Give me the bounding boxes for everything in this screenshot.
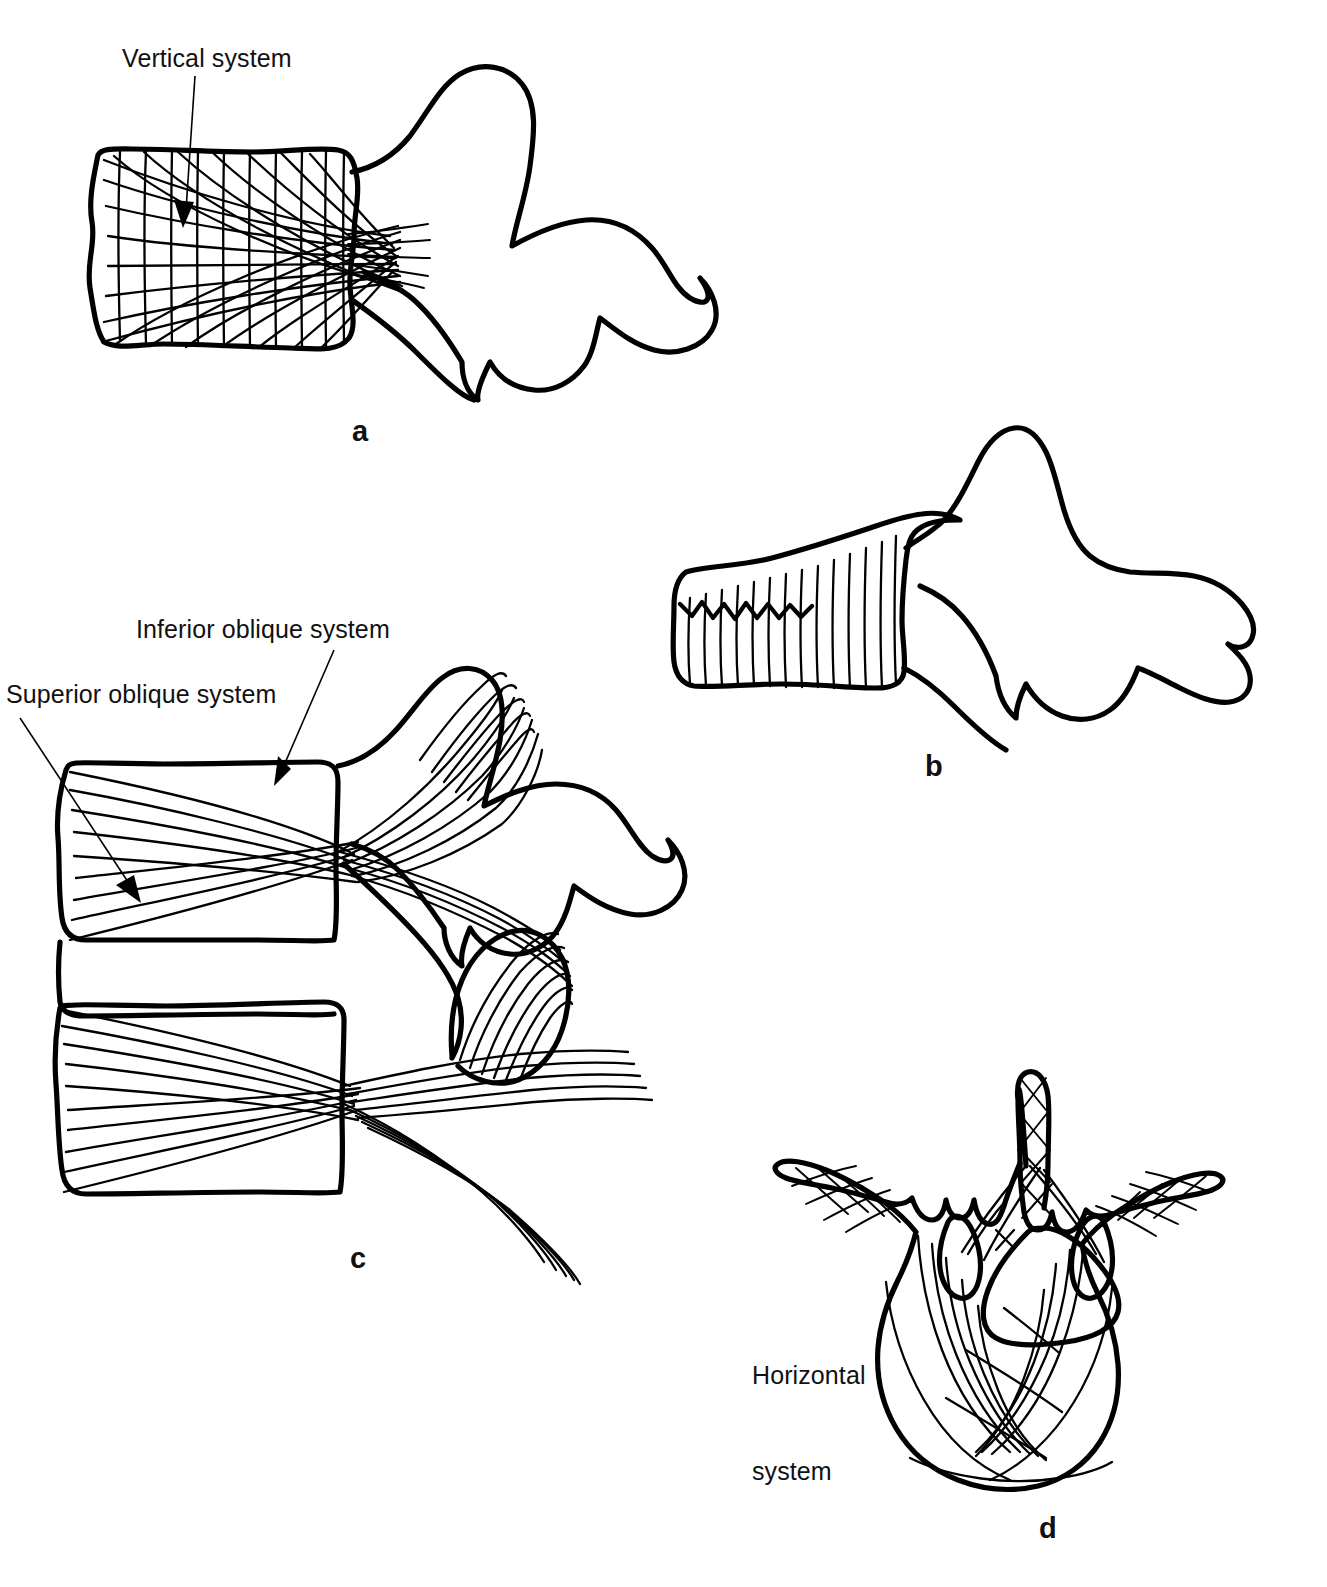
panel-letter-b: b — [925, 750, 943, 783]
panel-c-upper-posterior-fan — [338, 690, 542, 882]
vertebra-trabecular-diagram — [0, 0, 1327, 1587]
panel-b-inferior-arch-link — [904, 668, 1006, 750]
panel-letter-c: c — [350, 1242, 366, 1275]
callout-superior-oblique-system: Superior oblique system — [6, 678, 277, 710]
panel-letter-a: a — [352, 415, 368, 448]
callout-horizontal-system-line2: system — [752, 1455, 866, 1487]
panel-c-upper-inferior-oblique — [70, 842, 358, 940]
figure-root: Vertical system Inferior oblique system … — [0, 0, 1327, 1587]
callout-horizontal-system-line1: Horizontal — [752, 1359, 866, 1391]
panel-c-drawing — [55, 668, 685, 1284]
panel-d-left-transverse-crosshatch — [792, 1166, 906, 1232]
panel-d-vertebral-foramen — [983, 1228, 1118, 1345]
panel-b-fracture-zigzag — [680, 602, 812, 619]
panel-letter-d: d — [1039, 1512, 1057, 1545]
panel-c-upper-descending-fan — [340, 852, 572, 986]
callout-vertical-system: Vertical system — [122, 42, 292, 74]
callout-leader-inferior-oblique-system — [274, 650, 334, 786]
panel-a-posterior-arch — [352, 67, 716, 400]
panel-b-drawing — [673, 428, 1253, 750]
panel-c-lower-superior-oblique — [62, 1010, 358, 1120]
callout-inferior-oblique-system: Inferior oblique system — [136, 613, 390, 645]
callout-horizontal-system: Horizontal system — [752, 1295, 866, 1551]
callout-leader-superior-oblique-system — [20, 718, 141, 903]
panel-b-posterior-arch — [906, 428, 1254, 720]
panel-c-lower-descending-fan — [344, 1104, 580, 1284]
panel-a-drawing — [89, 67, 716, 400]
